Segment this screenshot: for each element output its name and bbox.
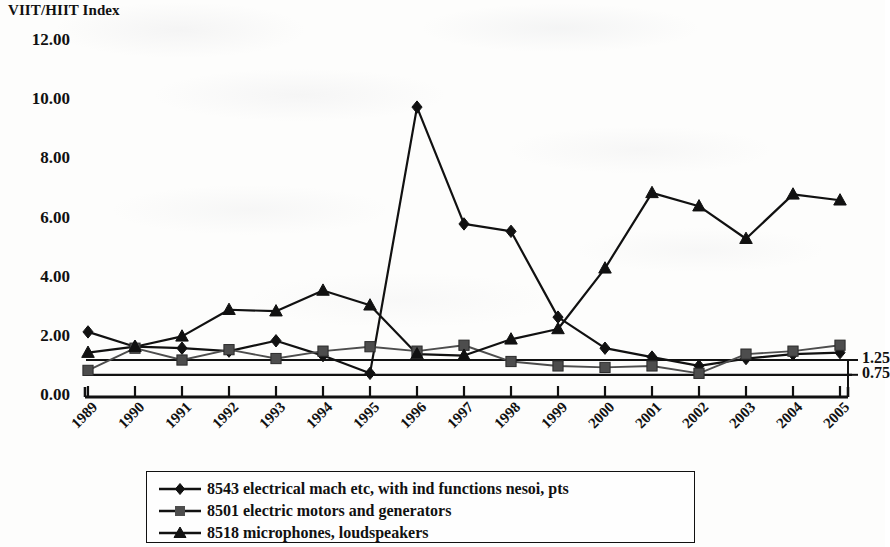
- y-axis-tick-label: 10.00: [4, 89, 70, 109]
- triangle-marker: [176, 330, 189, 341]
- diamond-marker: [83, 326, 93, 338]
- diamond-marker: [600, 342, 610, 354]
- square-marker: [318, 346, 328, 356]
- legend-item: 8501 electric motors and generators: [157, 499, 451, 522]
- diamond-marker: [365, 367, 375, 379]
- square-marker: [365, 342, 375, 352]
- square-marker: [177, 355, 187, 365]
- square-marker: [271, 353, 281, 363]
- legend-item: 8543 electrical mach etc, with ind funct…: [157, 477, 569, 500]
- square-marker: [600, 362, 610, 372]
- y-axis-tick-label: 8.00: [4, 148, 70, 168]
- chart-legend: 8543 electrical mach etc, with ind funct…: [146, 471, 695, 543]
- series-line-diamond: [88, 107, 840, 373]
- diamond-marker: [271, 335, 281, 347]
- legend-item: 8518 microphones, loudspeakers: [157, 521, 429, 544]
- y-axis-tick-label: 12.00: [4, 30, 70, 50]
- square-marker: [835, 340, 845, 350]
- diamond-marker: [157, 480, 203, 498]
- y-axis-tick-label: 2.00: [4, 326, 70, 346]
- diamond-marker: [177, 342, 187, 354]
- diamond-marker: [412, 101, 422, 113]
- diamond-marker: [459, 218, 469, 230]
- triangle-marker: [317, 284, 330, 295]
- y-axis-tick-label: 0.00: [4, 385, 70, 405]
- square-marker: [694, 368, 704, 378]
- square-marker: [157, 502, 203, 520]
- square-marker: [83, 365, 93, 375]
- y-axis-tick-label: 6.00: [4, 208, 70, 228]
- triangle-marker: [599, 262, 612, 273]
- square-marker: [741, 349, 751, 359]
- square-marker: [506, 356, 516, 366]
- legend-item-label: 8518 microphones, loudspeakers: [207, 524, 429, 542]
- y-axis-tick-label: 4.00: [4, 267, 70, 287]
- square-marker: [788, 346, 798, 356]
- legend-item-label: 8501 electric motors and generators: [207, 502, 451, 520]
- triangle-marker: [157, 524, 203, 542]
- triangle-marker: [787, 188, 800, 199]
- square-marker: [647, 361, 657, 371]
- legend-item-label: 8543 electrical mach etc, with ind funct…: [207, 480, 569, 498]
- square-marker: [224, 345, 234, 355]
- triangle-marker: [646, 186, 659, 197]
- right-axis-tick-label: 0.75: [862, 364, 890, 382]
- square-marker: [553, 361, 563, 371]
